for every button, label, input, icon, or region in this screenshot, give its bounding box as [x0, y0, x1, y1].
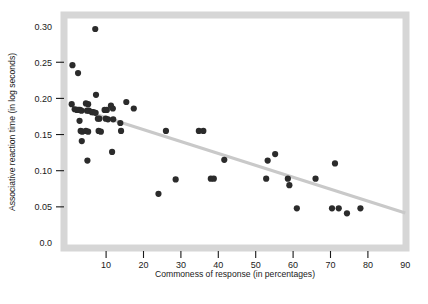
data-point — [265, 157, 271, 163]
data-point — [294, 205, 300, 211]
data-point — [155, 191, 161, 197]
scatter-plot-figure: 0.00.050.100.150.200.250.30 102030405060… — [0, 0, 428, 304]
x-tick-label: 70 — [325, 260, 335, 270]
y-tick-label: 0.25 — [34, 58, 52, 68]
data-point — [79, 138, 85, 144]
data-point — [286, 182, 292, 188]
data-point — [329, 205, 335, 211]
data-point — [221, 157, 227, 163]
data-point — [285, 176, 291, 182]
data-point — [173, 176, 179, 182]
data-point — [163, 128, 169, 134]
data-point — [93, 110, 99, 116]
data-point — [117, 120, 123, 126]
data-point — [118, 128, 124, 134]
data-point — [357, 205, 363, 211]
y-tick-label: 0.0 — [39, 238, 52, 248]
data-point — [84, 157, 90, 163]
data-point — [69, 62, 75, 68]
data-point — [78, 108, 84, 114]
data-point — [336, 205, 342, 211]
y-axis-tick-labels: 0.00.050.100.150.200.250.30 — [34, 22, 52, 249]
y-tick-label: 0.30 — [34, 22, 52, 32]
data-point — [92, 26, 98, 32]
data-point — [76, 118, 82, 124]
data-point — [344, 210, 350, 216]
x-axis-ticks — [106, 251, 368, 258]
data-point — [200, 128, 206, 134]
data-point — [312, 176, 318, 182]
plot-frame — [64, 15, 406, 248]
y-tick-label: 0.20 — [34, 94, 52, 104]
data-point — [332, 160, 338, 166]
y-axis-title: Associative reaction time (in log second… — [7, 53, 17, 211]
x-tick-label: 80 — [363, 260, 373, 270]
data-point — [85, 129, 91, 135]
y-tick-label: 0.10 — [34, 166, 52, 176]
data-point — [93, 92, 99, 98]
chart-canvas: 0.00.050.100.150.200.250.30 102030405060… — [0, 0, 428, 304]
x-tick-label: 20 — [138, 260, 148, 270]
data-point — [131, 105, 137, 111]
x-tick-label: 90 — [400, 260, 410, 270]
y-tick-label: 0.15 — [34, 130, 52, 140]
data-point — [109, 149, 115, 155]
data-point — [211, 176, 217, 182]
data-point — [85, 101, 91, 107]
data-point — [75, 70, 81, 76]
x-tick-label: 10 — [101, 260, 111, 270]
data-point — [272, 151, 278, 157]
data-point — [110, 116, 116, 122]
x-axis-title: Commoness of response (in percentages) — [155, 269, 315, 279]
data-point — [98, 129, 104, 135]
data-point — [123, 99, 129, 105]
data-point — [110, 105, 116, 111]
data-point — [96, 116, 102, 122]
data-point — [263, 176, 269, 182]
y-tick-label: 0.05 — [34, 202, 52, 212]
